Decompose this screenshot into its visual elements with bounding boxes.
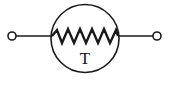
thermistor-label: T: [80, 49, 91, 68]
resistor-zigzag-icon: [52, 29, 118, 43]
left-terminal-icon: [8, 32, 16, 40]
right-terminal-icon: [153, 32, 161, 40]
thermistor-diagram: T: [0, 0, 181, 89]
thermistor-symbol: T: [0, 0, 181, 89]
